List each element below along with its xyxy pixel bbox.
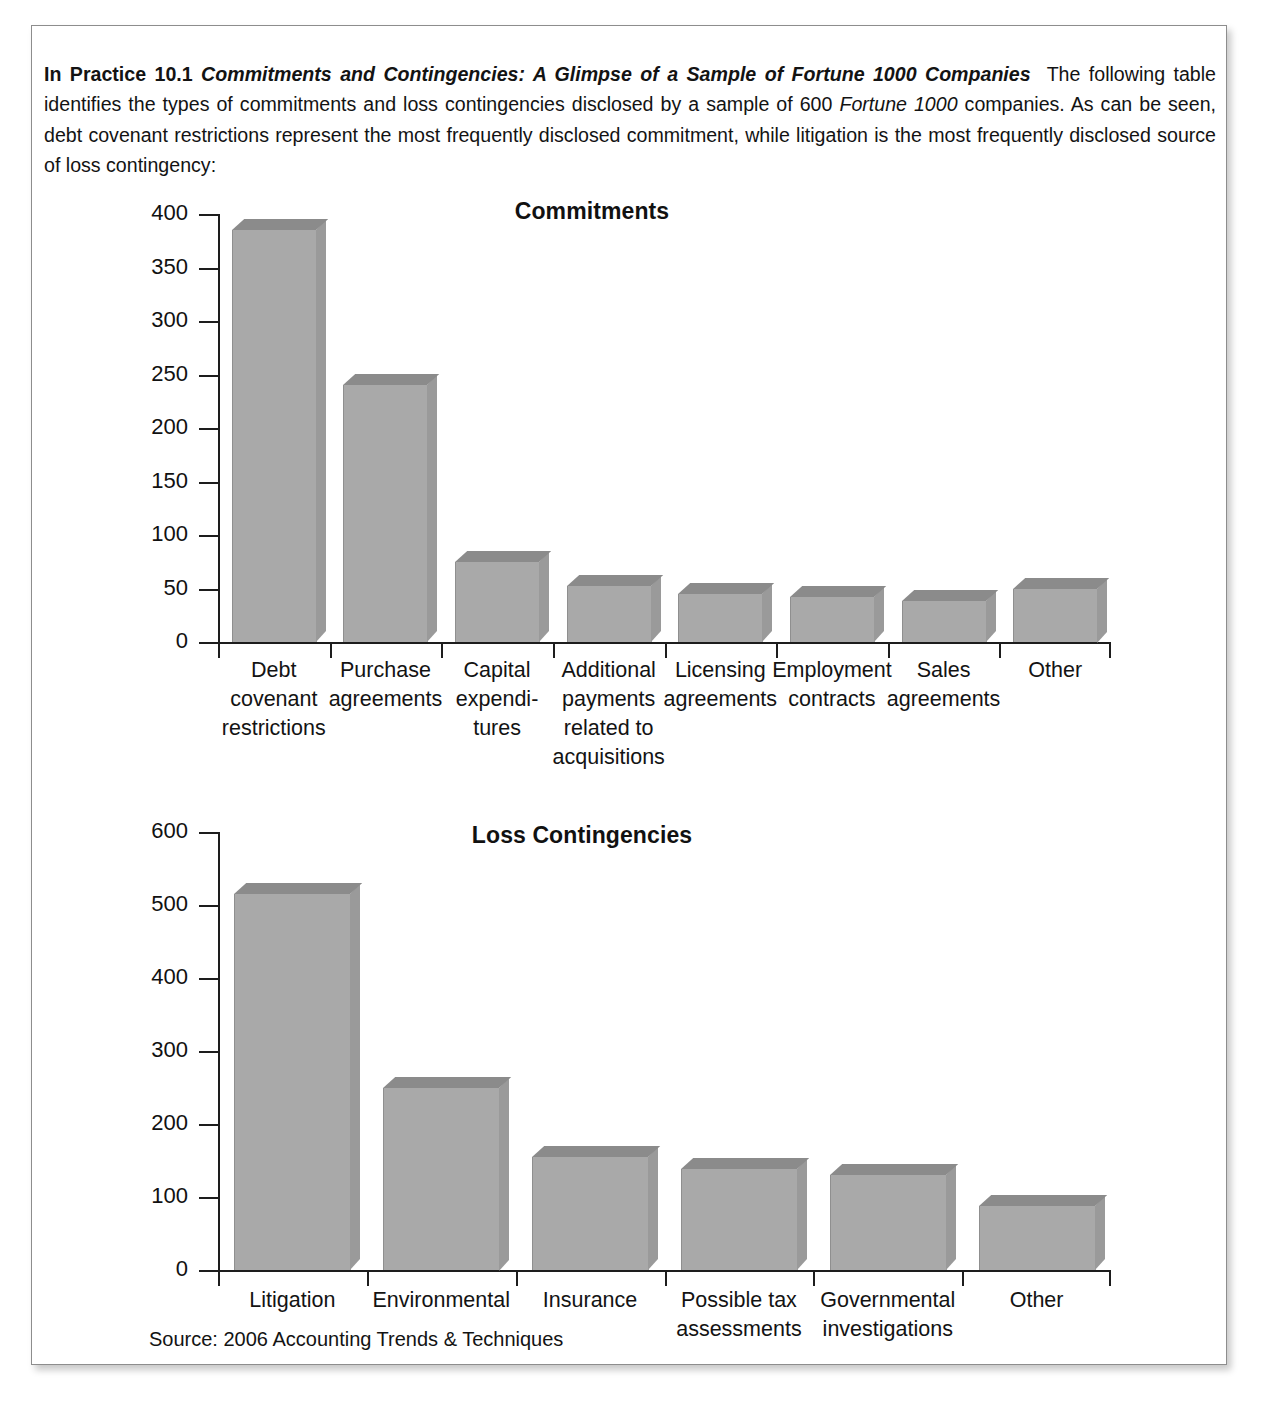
y-tick-200: 200 xyxy=(199,1124,218,1126)
y-tick-0: 0 xyxy=(199,642,218,644)
in-practice-box: In Practice 10.1 Commitments and Conting… xyxy=(31,25,1227,1365)
y-tick-250: 250 xyxy=(199,375,218,377)
intro-emphasis: Fortune 1000 xyxy=(839,93,957,115)
x-category-label: Debt covenant restrictions xyxy=(211,656,337,743)
x-category-label: Sales agreements xyxy=(881,656,1007,714)
y-tick-label-50: 50 xyxy=(98,574,188,602)
bar-top-face xyxy=(383,1077,511,1088)
y-tick-50: 50 xyxy=(199,589,218,591)
y-tick-label-500: 500 xyxy=(98,890,188,918)
bar-top-face xyxy=(234,883,362,894)
bar-front-face xyxy=(830,1175,947,1270)
x-tick xyxy=(516,1272,518,1286)
bar xyxy=(678,594,762,642)
chart-loss-contingencies: Loss Contingencies 0100200300400500600 L… xyxy=(32,794,1228,1354)
bar xyxy=(830,1175,946,1270)
y-tick-label-600: 600 xyxy=(98,817,188,845)
bar-front-face xyxy=(532,1157,649,1270)
bar-top-face xyxy=(830,1164,958,1175)
bar-front-face xyxy=(567,586,652,642)
y-tick-350: 350 xyxy=(199,268,218,270)
bar-top-face xyxy=(232,219,328,230)
y-tick-label-200: 200 xyxy=(98,413,188,441)
y-tick-0: 0 xyxy=(199,1270,218,1272)
bar xyxy=(790,597,874,642)
bar-side-face xyxy=(427,374,437,642)
x-category-label: Licensing agreements xyxy=(657,656,783,714)
x-tick xyxy=(1109,1272,1111,1286)
y-tick-label-200: 200 xyxy=(98,1109,188,1137)
bar-side-face xyxy=(797,1158,807,1270)
y-tick-300: 300 xyxy=(199,321,218,323)
x-category-label: Additional payments related to acquisiti… xyxy=(546,656,672,772)
bar xyxy=(979,1206,1095,1270)
bar-front-face xyxy=(455,562,540,642)
y-tick-150: 150 xyxy=(199,482,218,484)
bar-front-face xyxy=(383,1088,500,1271)
bar-top-face xyxy=(343,374,439,385)
bar-front-face xyxy=(234,894,351,1270)
bar-front-face xyxy=(343,385,428,642)
y-tick-300: 300 xyxy=(199,1051,218,1053)
bar-side-face xyxy=(651,575,661,642)
bar xyxy=(1013,589,1097,643)
x-tick xyxy=(218,1272,220,1286)
bar-front-face xyxy=(1013,589,1098,643)
bar-side-face xyxy=(316,219,326,642)
bar-side-face xyxy=(648,1146,658,1270)
y-tick-label-0: 0 xyxy=(98,1255,188,1283)
bar-front-face xyxy=(979,1206,1096,1270)
bar-top-face xyxy=(1013,578,1109,589)
x-category-label: Other xyxy=(953,1286,1121,1315)
x-tick xyxy=(665,1272,667,1286)
bar xyxy=(343,385,427,642)
y-tick-label-0: 0 xyxy=(98,627,188,655)
intro-paragraph: In Practice 10.1 Commitments and Conting… xyxy=(44,59,1216,181)
x-tick xyxy=(367,1272,369,1286)
x-category-label: Possible tax assessments xyxy=(655,1286,823,1344)
bar-top-face xyxy=(567,575,663,586)
y-axis-commitments xyxy=(218,214,220,644)
y-tick-500: 500 xyxy=(199,905,218,907)
y-tick-600: 600 xyxy=(199,832,218,834)
bar-top-face xyxy=(902,590,998,601)
bar xyxy=(383,1088,499,1271)
y-tick-label-100: 100 xyxy=(98,520,188,548)
x-category-label: Capital expendi- tures xyxy=(434,656,560,743)
y-tick-label-400: 400 xyxy=(98,199,188,227)
y-tick-200: 200 xyxy=(199,428,218,430)
bar-side-face xyxy=(350,883,360,1270)
bar-top-face xyxy=(678,583,774,594)
y-tick-label-100: 100 xyxy=(98,1182,188,1210)
x-category-label: Other xyxy=(992,656,1118,685)
y-tick-label-250: 250 xyxy=(98,360,188,388)
chart-commitments: Commitments 050100150200250300350400 Deb… xyxy=(32,176,1228,776)
bar-side-face xyxy=(539,551,549,642)
y-tick-label-350: 350 xyxy=(98,253,188,281)
bar xyxy=(681,1169,797,1270)
intro-title: Commitments and Contingencies: A Glimpse… xyxy=(201,63,1031,85)
plot-area-loss-contingencies: 0100200300400500600 xyxy=(218,832,1111,1272)
y-tick-100: 100 xyxy=(199,535,218,537)
y-tick-400: 400 xyxy=(199,214,218,216)
y-tick-100: 100 xyxy=(199,1197,218,1199)
x-category-label: Insurance xyxy=(506,1286,674,1315)
bar xyxy=(455,562,539,642)
source-note: Source: 2006 Accounting Trends & Techniq… xyxy=(149,1328,563,1351)
x-category-label: Employment contracts xyxy=(769,656,895,714)
intro-label: In Practice 10.1 xyxy=(44,63,193,85)
x-category-label: Governmental investigations xyxy=(804,1286,972,1344)
bar-top-face xyxy=(532,1146,660,1157)
y-tick-400: 400 xyxy=(199,978,218,980)
bar xyxy=(532,1157,648,1270)
x-tick xyxy=(962,1272,964,1286)
bar-side-face xyxy=(946,1164,956,1270)
y-tick-label-150: 150 xyxy=(98,467,188,495)
x-category-label: Purchase agreements xyxy=(322,656,448,714)
bar-front-face xyxy=(681,1169,798,1270)
bar-front-face xyxy=(678,594,763,642)
bar xyxy=(902,601,986,642)
bar-top-face xyxy=(455,551,551,562)
bar xyxy=(567,586,651,642)
bar-top-face xyxy=(979,1195,1107,1206)
